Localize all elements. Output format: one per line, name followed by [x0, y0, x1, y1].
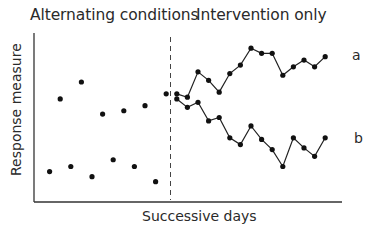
chart-plot-area	[0, 0, 372, 239]
data-point	[206, 78, 211, 83]
data-point	[312, 154, 317, 159]
data-point	[174, 96, 179, 101]
data-point	[323, 135, 328, 140]
data-point	[47, 169, 52, 174]
data-point	[195, 100, 200, 105]
data-point	[195, 69, 200, 74]
data-series	[47, 46, 328, 185]
series-line	[177, 99, 325, 167]
data-point	[227, 135, 232, 140]
data-point	[185, 95, 190, 100]
data-point	[238, 142, 243, 147]
data-point	[164, 91, 169, 96]
data-point	[132, 164, 137, 169]
data-point	[301, 145, 306, 150]
data-point	[89, 174, 94, 179]
series-a-baseline	[58, 79, 169, 116]
data-point	[79, 79, 84, 84]
data-point	[301, 57, 306, 62]
data-point	[248, 123, 253, 128]
data-point	[153, 179, 158, 184]
data-point	[227, 71, 232, 76]
data-point	[248, 46, 253, 51]
data-point	[111, 157, 116, 162]
data-point	[68, 164, 73, 169]
data-point	[280, 164, 285, 169]
series-b-intervention	[174, 96, 328, 169]
data-point	[121, 108, 126, 113]
data-point	[58, 96, 63, 101]
data-point	[217, 90, 222, 95]
data-point	[259, 51, 264, 56]
data-point	[142, 103, 147, 108]
data-point	[291, 135, 296, 140]
data-point	[270, 147, 275, 152]
data-point	[217, 115, 222, 120]
data-point	[174, 91, 179, 96]
data-point	[259, 137, 264, 142]
data-point	[323, 54, 328, 59]
data-point	[280, 73, 285, 78]
data-point	[270, 51, 275, 56]
data-point	[291, 64, 296, 69]
data-point	[238, 63, 243, 68]
data-point	[185, 105, 190, 110]
data-point	[206, 118, 211, 123]
series-b-baseline	[47, 157, 158, 184]
data-point	[312, 64, 317, 69]
data-point	[100, 112, 105, 117]
series-a-intervention	[174, 46, 328, 100]
